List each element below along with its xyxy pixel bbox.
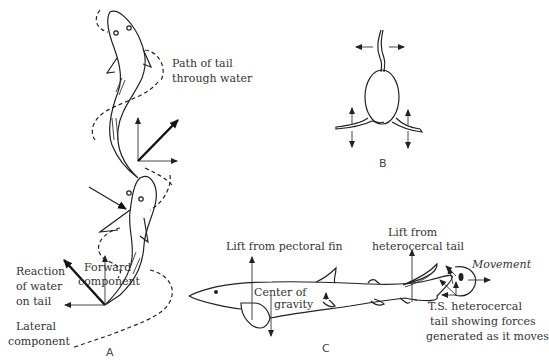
label-path-of-tail-1: Path of tail — [172, 57, 233, 71]
label-reaction-1: Reaction — [16, 265, 65, 279]
label-lift-pectoral: Lift from pectoral fin — [226, 240, 343, 254]
label-ts-3: generated as it moves — [426, 330, 549, 344]
label-ts-1: T.S. heterocercal — [428, 300, 522, 314]
caption-a: A — [106, 346, 114, 359]
label-center-of-gravity-2: gravity — [274, 298, 313, 312]
label-path-of-tail-2: through water — [172, 72, 252, 86]
panel-a-upper-fish — [92, 10, 178, 185]
caption-c: C — [322, 342, 330, 355]
label-forward-2: component — [78, 275, 140, 289]
label-lateral-1: Lateral — [16, 320, 56, 334]
caption-b: B — [379, 157, 387, 170]
label-lift-tail-2: heterocercal tail — [372, 240, 464, 254]
label-movement: Movement — [472, 258, 531, 272]
label-reaction-3: on tail — [16, 295, 51, 309]
label-lift-tail-1: Lift from — [388, 226, 437, 240]
label-ts-2: tail showing forces — [430, 315, 536, 329]
label-forward-1: Forward — [84, 261, 131, 275]
label-lateral-2: component — [8, 335, 70, 349]
panel-b-cross-section — [336, 30, 422, 148]
label-reaction-2: of water — [16, 280, 62, 294]
